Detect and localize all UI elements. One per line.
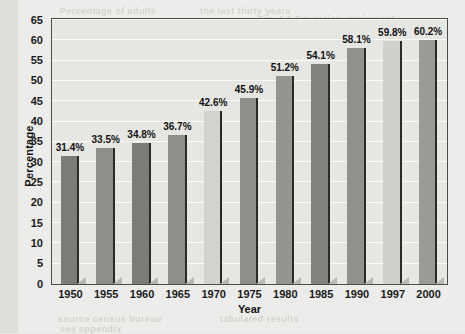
bar-slot: 59.8%: [383, 19, 402, 284]
bar-value-label: 58.1%: [342, 34, 370, 45]
x-axis-tick-label: 1950: [58, 288, 82, 300]
bar[interactable]: [96, 148, 115, 284]
bar-slot: 33.5%: [96, 19, 115, 284]
bar-slot: 60.2%: [419, 19, 438, 284]
y-axis-tick-label: 45: [31, 95, 43, 107]
y-axis-tick-label: 0: [37, 278, 43, 290]
bar-slot: 51.2%: [276, 19, 295, 284]
bar-value-label: 34.8%: [127, 129, 155, 140]
bar[interactable]: [204, 111, 223, 284]
y-axis-tick-label: 55: [31, 54, 43, 66]
x-axis-title: Year: [51, 303, 448, 315]
x-axis-tick-label: 2000: [416, 288, 440, 300]
bar[interactable]: [383, 41, 402, 284]
bar[interactable]: [419, 40, 438, 285]
bar[interactable]: [61, 156, 80, 284]
y-axis-tick-label: 25: [31, 176, 43, 188]
y-axis-tick-label: 50: [31, 74, 43, 86]
bar[interactable]: [132, 143, 151, 284]
ghost-text: source census bureau: [58, 314, 162, 324]
y-axis-tick-label: 30: [31, 156, 43, 168]
y-axis-tick-labels: 05101520253035404550556065: [0, 18, 49, 285]
ghost-text: Percentage of adults: [60, 6, 157, 16]
x-axis-tick-label: 1970: [201, 288, 225, 300]
x-axis-tick-label: 1997: [381, 288, 405, 300]
bar[interactable]: [240, 98, 259, 284]
y-axis-tick-label: 65: [31, 14, 43, 26]
x-axis-tick-label: 1985: [309, 288, 333, 300]
y-axis-tick-label: 35: [31, 135, 43, 147]
y-axis-tick-label: 60: [31, 34, 43, 46]
bar-value-label: 33.5%: [92, 134, 120, 145]
y-axis-tick-label: 20: [31, 196, 43, 208]
bar[interactable]: [311, 64, 330, 284]
x-axis-tick-label: 1990: [345, 288, 369, 300]
bar-value-label: 51.2%: [271, 62, 299, 73]
bar-slot: 58.1%: [347, 19, 366, 284]
bar-value-label: 54.1%: [306, 50, 334, 61]
y-axis-tick-label: 40: [31, 115, 43, 127]
ghost-text: see appendix: [60, 324, 122, 334]
bar-value-label: 60.2%: [414, 26, 442, 37]
bar-slot: 45.9%: [240, 19, 259, 284]
bar-slot: 54.1%: [311, 19, 330, 284]
bar-value-label: 59.8%: [378, 27, 406, 38]
bar[interactable]: [276, 76, 295, 284]
x-axis-tick-labels: 1950195519601965197019751980198519901997…: [51, 288, 448, 304]
bar[interactable]: [347, 48, 366, 284]
ghost-text: tabulated results: [220, 314, 299, 324]
x-axis-tick-label: 1965: [166, 288, 190, 300]
y-axis-tick-label: 15: [31, 217, 43, 229]
y-axis-tick-label: 5: [37, 257, 43, 269]
x-axis-tick-label: 1975: [237, 288, 261, 300]
bar-slot: 36.7%: [168, 19, 187, 284]
chart-plot-frame: 31.4%33.5%34.8%36.7%42.6%45.9%51.2%54.1%…: [51, 18, 448, 285]
x-axis-tick-label: 1955: [94, 288, 118, 300]
bar-slot: 34.8%: [132, 19, 151, 284]
bar[interactable]: [168, 135, 187, 284]
x-axis-tick-label: 1980: [273, 288, 297, 300]
bar-value-label: 36.7%: [163, 121, 191, 132]
bar-value-label: 31.4%: [56, 142, 84, 153]
bar-value-label: 42.6%: [199, 97, 227, 108]
bar-series: 31.4%33.5%34.8%36.7%42.6%45.9%51.2%54.1%…: [52, 19, 447, 284]
y-axis-tick-label: 10: [31, 237, 43, 249]
bar-slot: 31.4%: [61, 19, 80, 284]
bar-slot: 42.6%: [204, 19, 223, 284]
bar-value-label: 45.9%: [235, 84, 263, 95]
x-axis-tick-label: 1960: [130, 288, 154, 300]
